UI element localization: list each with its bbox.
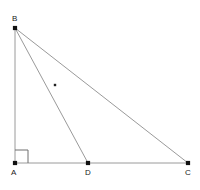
tick-mark-bd — [54, 84, 56, 86]
segment-bc — [15, 28, 188, 163]
vertex-label-d: D — [85, 168, 91, 177]
geometry-canvas — [0, 0, 200, 190]
vertex-point-c — [186, 161, 190, 165]
vertex-label-a: A — [11, 168, 16, 177]
vertex-point-b — [13, 26, 17, 30]
geometry-figure: B A D C — [0, 0, 200, 190]
vertex-point-d — [86, 161, 90, 165]
segment-bd — [15, 28, 88, 163]
vertex-point-a — [13, 161, 17, 165]
vertex-label-c: C — [185, 168, 191, 177]
vertex-label-b: B — [12, 14, 17, 23]
